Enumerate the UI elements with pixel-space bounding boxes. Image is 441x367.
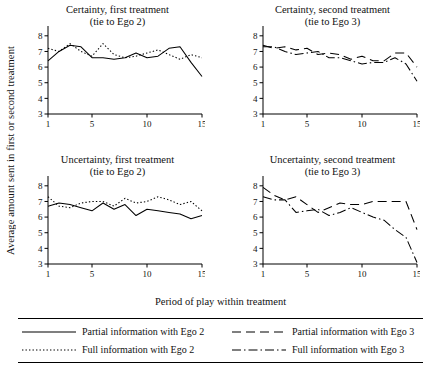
legend-item-partial-ego2: Partial information with Ego 2 (22, 326, 204, 337)
svg-text:7: 7 (253, 197, 258, 207)
svg-text:8: 8 (38, 181, 43, 191)
plot-area-certainty-second: 345678151015 (245, 22, 420, 132)
svg-text:4: 4 (38, 94, 43, 104)
panel-title-uncertainty-first: Uncertainty, first treatment (tie to Ego… (30, 154, 205, 178)
svg-text:4: 4 (253, 244, 258, 254)
panel-certainty-first: Certainty, first treatment (tie to Ego 2… (30, 22, 205, 132)
legend-item-partial-ego3: Partial information with Ego 3 (232, 326, 414, 337)
svg-text:7: 7 (253, 47, 258, 57)
svg-text:3: 3 (38, 109, 43, 119)
legend-key-solid-icon (22, 327, 76, 337)
chart-figure: Average amount sent in first or second t… (0, 0, 441, 367)
svg-text:8: 8 (253, 181, 258, 191)
svg-text:3: 3 (253, 109, 258, 119)
svg-text:6: 6 (253, 62, 258, 72)
svg-text:7: 7 (38, 47, 43, 57)
plot-area-uncertainty-second: 345678151015 (245, 172, 420, 282)
svg-text:5: 5 (253, 228, 258, 238)
svg-text:4: 4 (253, 94, 258, 104)
svg-text:4: 4 (38, 244, 43, 254)
panel-certainty-second: Certainty, second treatment (tie to Ego … (245, 22, 420, 132)
svg-text:5: 5 (90, 119, 95, 129)
svg-text:6: 6 (38, 212, 43, 222)
svg-text:5: 5 (38, 78, 43, 88)
svg-text:6: 6 (38, 62, 43, 72)
svg-text:15: 15 (198, 119, 206, 129)
plot-area-certainty-first: 345678151015 (30, 22, 205, 132)
svg-text:5: 5 (305, 269, 310, 279)
legend-item-full-ego3: Full information with Ego 3 (232, 344, 404, 355)
legend-key-dashed-icon (232, 327, 286, 337)
svg-text:6: 6 (253, 212, 258, 222)
svg-text:10: 10 (143, 119, 153, 129)
svg-text:5: 5 (305, 119, 310, 129)
svg-text:15: 15 (413, 269, 421, 279)
svg-text:1: 1 (261, 269, 266, 279)
svg-text:1: 1 (46, 269, 51, 279)
svg-text:15: 15 (198, 269, 206, 279)
svg-text:10: 10 (358, 269, 368, 279)
panel-uncertainty-second: Uncertainty, second treatment (tie to Eg… (245, 172, 420, 282)
plot-area-uncertainty-first: 345678151015 (30, 172, 205, 282)
legend-divider-top (18, 318, 423, 319)
svg-text:5: 5 (38, 228, 43, 238)
panel-title-certainty-second: Certainty, second treatment (tie to Ego … (245, 4, 420, 28)
svg-text:1: 1 (261, 119, 266, 129)
legend-key-dashdot-icon (232, 345, 286, 355)
svg-text:3: 3 (253, 259, 258, 269)
svg-text:5: 5 (90, 269, 95, 279)
legend-divider-bottom (18, 362, 423, 363)
svg-text:3: 3 (38, 259, 43, 269)
legend-key-dotted-icon (22, 345, 76, 355)
y-axis-label: Average amount sent in first or second t… (2, 0, 18, 300)
x-axis-label: Period of play within treatment (0, 296, 441, 307)
panel-title-uncertainty-second: Uncertainty, second treatment (tie to Eg… (245, 154, 420, 178)
panel-uncertainty-first: Uncertainty, first treatment (tie to Ego… (30, 172, 205, 282)
svg-text:1: 1 (46, 119, 51, 129)
svg-text:10: 10 (358, 119, 368, 129)
svg-text:8: 8 (253, 31, 258, 41)
svg-text:7: 7 (38, 197, 43, 207)
svg-text:5: 5 (253, 78, 258, 88)
legend-item-full-ego2: Full information with Ego 2 (22, 344, 194, 355)
panel-title-certainty-first: Certainty, first treatment (tie to Ego 2… (30, 4, 205, 28)
svg-text:10: 10 (143, 269, 153, 279)
svg-text:15: 15 (413, 119, 421, 129)
svg-text:8: 8 (38, 31, 43, 41)
